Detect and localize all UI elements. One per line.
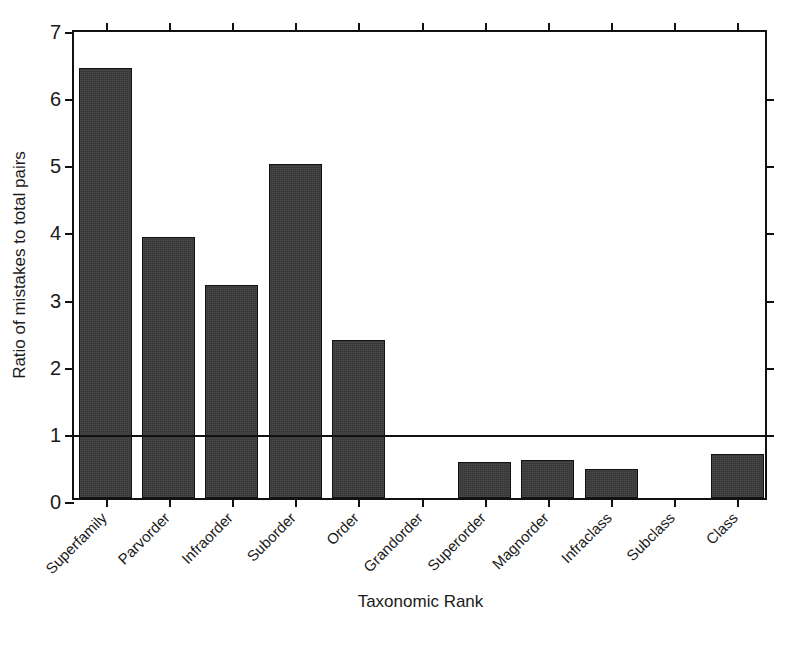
bar-infraclass: [585, 469, 638, 498]
bar-magnorder: [521, 460, 574, 498]
x-tick-top-subclass: [674, 23, 676, 32]
x-tick-superorder: [485, 498, 487, 507]
x-tick-top-order: [358, 23, 360, 32]
x-tick-class: [737, 498, 739, 507]
x-tick-parvorder: [169, 498, 171, 507]
bar-superorder: [458, 462, 511, 498]
bar-suborder: [269, 164, 322, 498]
x-axis-title-text: Taxonomic Rank: [358, 592, 484, 611]
x-tick-top-parvorder: [169, 23, 171, 32]
y-tick-3: [65, 301, 74, 303]
x-tick-label-infraclass: Infraclass: [558, 509, 615, 566]
x-tick-label-infraorder: Infraorder: [178, 509, 236, 567]
y-tick-right-6: [765, 99, 774, 101]
y-tick-1: [65, 435, 74, 437]
y-tick-6: [65, 99, 74, 101]
bar-class: [711, 454, 764, 498]
x-tick-top-superfamily: [106, 23, 108, 32]
x-tick-label-superorder: Superorder: [424, 509, 489, 574]
bar-chart-figure: Ratio of mistakes to total pairs 0 1 2 3…: [0, 0, 799, 645]
y-tick-right-1: [765, 435, 774, 437]
bar-parvorder: [142, 237, 195, 498]
x-axis-title: Taxonomic Rank: [0, 592, 799, 612]
y-tick-label-6: 6: [50, 89, 61, 109]
x-tick-label-class: Class: [703, 509, 742, 548]
y-tick-5: [65, 166, 74, 168]
bar-order: [332, 340, 385, 498]
plot-area: 0 1 2 3 4 5 6 7: [72, 30, 767, 500]
y-tick-right-5: [765, 166, 774, 168]
x-tick-top-infraorder: [232, 23, 234, 32]
y-tick-label-0: 0: [50, 492, 61, 512]
x-tick-top-magnorder: [548, 23, 550, 32]
x-tick-order: [358, 498, 360, 507]
y-tick-4: [65, 233, 74, 235]
x-tick-top-infraclass: [611, 23, 613, 32]
x-tick-label-subclass: Subclass: [623, 509, 678, 564]
y-tick-label-7: 7: [50, 22, 61, 42]
y-tick-7: [65, 32, 74, 34]
y-axis-title: Ratio of mistakes to total pairs: [10, 151, 30, 379]
x-tick-label-suborder: Suborder: [243, 509, 299, 565]
x-tick-label-grandorder: Grandorder: [359, 509, 425, 575]
bar-infraorder: [205, 285, 258, 499]
x-tick-label-parvorder: Parvorder: [114, 509, 173, 568]
x-tick-superfamily: [106, 498, 108, 507]
y-tick-0: [65, 502, 74, 504]
y-tick-right-2: [765, 368, 774, 370]
x-tick-label-order: Order: [323, 509, 362, 548]
x-tick-top-class: [737, 23, 739, 32]
y-tick-right-4: [765, 233, 774, 235]
y-tick-right-3: [765, 301, 774, 303]
y-tick-label-3: 3: [50, 291, 61, 311]
x-tick-suborder: [295, 498, 297, 507]
x-tick-magnorder: [548, 498, 550, 507]
x-tick-label-superfamily: Superfamily: [42, 509, 110, 577]
reference-line: [74, 435, 765, 437]
y-tick-label-2: 2: [50, 358, 61, 378]
x-tick-top-suborder: [295, 23, 297, 32]
x-tick-label-magnorder: Magnorder: [489, 509, 552, 572]
x-tick-grandorder: [422, 498, 424, 507]
x-tick-top-superorder: [485, 23, 487, 32]
y-tick-label-1: 1: [50, 425, 61, 445]
x-tick-subclass: [674, 498, 676, 507]
y-tick-label-5: 5: [50, 156, 61, 176]
bar-superfamily: [79, 68, 132, 498]
y-tick-label-4: 4: [50, 223, 61, 243]
x-tick-top-grandorder: [422, 23, 424, 32]
x-tick-infraorder: [232, 498, 234, 507]
x-tick-infraclass: [611, 498, 613, 507]
y-tick-2: [65, 368, 74, 370]
